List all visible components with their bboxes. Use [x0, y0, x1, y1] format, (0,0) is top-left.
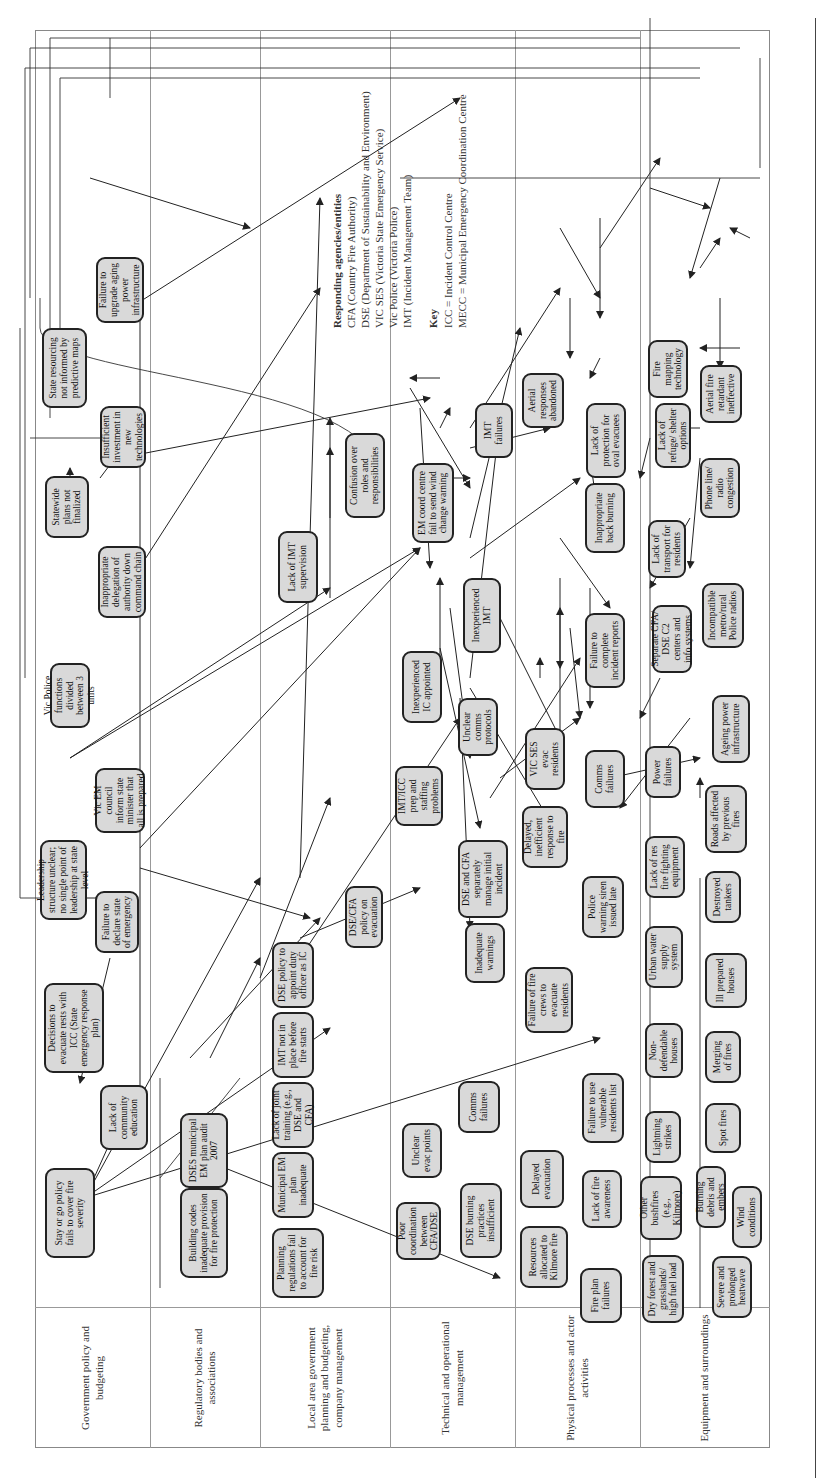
node-lack-community-education: Lack of community education: [100, 1085, 148, 1150]
node-lack-joint-training: Lack of joint training (e.g., DSE and CF…: [272, 1082, 314, 1148]
node-ill-prepared: Ill prepared houses: [705, 953, 747, 1008]
node-aerial-abandoned: Aerial responses abandoned: [522, 373, 564, 428]
legend-agency: IMT (Incident Management Team): [400, 8, 414, 328]
node-dse-cfa-policy-evacuation: DSE/CFA policy on evacuation: [345, 886, 383, 948]
node-insufficient-investment: Insufficient investment in new technolog…: [100, 406, 146, 468]
node-lack-fire-awareness: Lack of fire awareness: [582, 1170, 622, 1228]
node-vic-ses-evac: VIC SES evac residents: [525, 728, 565, 790]
node-other-bushfires: Other bushfires (e.g., Kilmore): [640, 1176, 682, 1240]
node-dses-audit: DSES municipal EM plan audit 2007: [180, 1113, 228, 1188]
node-lack-res-equipment: Lack of res fire fighting equipment: [645, 836, 685, 898]
node-building-codes: Building codes inadequate provision for …: [180, 1188, 228, 1278]
node-lack-transport: Lack of transport for residents: [648, 520, 686, 578]
node-comms-failures-physical: Comms failures: [585, 750, 625, 808]
node-planning-regulations: Planning regulations fail to account for…: [272, 1228, 324, 1298]
node-inexperienced-imt: Inexperienced IMT: [463, 578, 501, 653]
node-vic-em-council: Vic EM council inform state minister tha…: [95, 768, 145, 833]
node-dse-policy-duty-officer: DSE policy to appoint duty officer as IC: [272, 942, 314, 1008]
node-merging-fires: Merging of fires: [705, 1031, 741, 1083]
legend-agency: Vic Police (Victoria Police): [386, 8, 400, 328]
node-power-failures: Power failures: [645, 746, 681, 798]
legend-key-item: ICC = Incident Control Centre: [441, 8, 455, 328]
node-lack-refuge: Lack of refuge/ shelter options: [655, 403, 691, 468]
node-poor-coordination: Poor coordination between CFA/DSE: [396, 1202, 441, 1260]
node-separate-cfa-dse: Separate CFA/ DSE C2 centers and info sy…: [652, 605, 692, 673]
node-roads-affected: Roads affected by previous fires: [705, 785, 747, 853]
node-dse-burning: DSE burning practices insufficient: [460, 1183, 502, 1258]
node-destroyed-tankers: Destroyed tankers: [705, 871, 741, 923]
node-leadership-structure: Leadership structure unclear; no single …: [40, 840, 87, 920]
legend-agencies-title: Responding agencies/entities: [330, 8, 344, 328]
node-failure-upgrade-power: Failure to upgrade aging power infrastru…: [96, 257, 144, 323]
node-ageing-power: Ageing power infrastructure: [712, 695, 750, 763]
node-aerial-retardant: Aerial fire retardant ineffective: [700, 365, 742, 423]
node-stay-or-go: Stay or go policy fails to cover fire se…: [45, 1168, 95, 1258]
node-wind-conditions: Wind conditions: [732, 1186, 762, 1248]
node-imt-not-in-place: IMT not in place before fire starts: [272, 1012, 314, 1078]
node-spot-fires: Spot fires: [705, 1103, 741, 1153]
node-inexperienced-ic: Inexperienced IC appointed: [402, 651, 442, 723]
node-lightning: Lightning strikes: [645, 1111, 681, 1163]
node-decisions-to-evacuate: Decisions to evacuate rests with ICC (St…: [44, 983, 104, 1073]
node-confusion-roles: Confusion over roles and responsibilitie…: [345, 433, 385, 518]
node-lack-imt-supervision: Lack of IMT supervision: [278, 531, 318, 603]
node-delayed-response: Delayed, inefficient response to fire: [522, 806, 568, 868]
legend-agency: CFA (Country Fire Authority): [344, 8, 358, 328]
node-unclear-comms-protocols: Unclear comms protocols: [458, 698, 498, 756]
node-failure-fire-crews: Failure of fire crews to evacuate reside…: [525, 967, 573, 1033]
node-em-coord-centre: EM coord centre fail to send wind change…: [412, 463, 454, 543]
legend: Responding agencies/entities CFA (Countr…: [330, 8, 469, 328]
node-comms-failures-technical: Comms failures: [458, 1081, 500, 1133]
node-lack-protection-oval: Lack of protection for oval evacuees: [586, 403, 626, 478]
node-non-defendable: Non-defendable houses: [645, 1023, 683, 1078]
figure-bottom-rule: [815, 18, 816, 1478]
node-resources-kilmore: Resources allocated to Kilmore fire: [520, 1226, 568, 1288]
legend-key-item: MECC = Municipal Emergency Coordination …: [455, 8, 469, 328]
node-incompatible-radios: Incompatible metro/rural Police radios: [702, 583, 744, 648]
node-inappropriate-delegation: Inappropriate delegation of authority do…: [98, 546, 146, 618]
node-dry-forest: Dry forest and grasslands/ high fuel loa…: [642, 1255, 684, 1323]
legend-agency: VIC SES (Victoria State Emergency Servic…: [372, 8, 386, 328]
node-dse-cfa-separately: DSE and CFA separately manage initial in…: [458, 840, 508, 918]
node-burning-debris: Burning debris and embers: [696, 1166, 726, 1228]
node-failure-vulnerable-list: Failure to use vulnerable residents list: [582, 1073, 624, 1143]
node-failure-incident-reports: Failure to complete incident reports: [585, 613, 625, 688]
node-municipal-em-plan: Municipal EM plan inadequate: [272, 1152, 314, 1218]
node-police-siren: Police warning siren issued late: [582, 876, 624, 938]
node-delayed-evacuation: Delayed evacuation: [520, 1150, 564, 1208]
node-severe-heatwave: Severe and prolonged heatwave: [712, 1256, 752, 1318]
node-phone-radio-congestion: Phone line/ radio congestion: [700, 458, 740, 518]
node-inappropriate-back-burning: Inappropriate back burning: [585, 483, 625, 553]
node-statewide-plans: Statewide plans not finalized: [45, 476, 89, 538]
legend-agency: DSE (Department of Sustainability and En…: [358, 8, 372, 328]
node-state-resourcing: State resourcing not informed by predict…: [42, 328, 87, 408]
node-vic-police-functions: Vic Police functions divided between 3 u…: [50, 663, 90, 728]
legend-key-title: Key: [426, 8, 440, 328]
diagram-canvas: Government policy and budgeting Regulato…: [0, 0, 836, 1478]
node-failure-declare-emergency: Failure to declare state of emergency: [95, 891, 139, 953]
node-imt-icc-prep: IMT/ICC prep and staffing problems: [395, 766, 443, 826]
node-inadequate-warnings: Inadequate warnings: [465, 923, 505, 983]
node-fire-plan-failures: Fire plan failures: [580, 1268, 622, 1323]
node-imt-failures: IMT failures: [475, 403, 513, 458]
node-unclear-evac-points: Unclear evac points: [402, 1123, 442, 1178]
node-urban-water: Urban water supply system: [645, 926, 683, 988]
node-fire-mapping: Fire mapping technology: [648, 340, 688, 398]
